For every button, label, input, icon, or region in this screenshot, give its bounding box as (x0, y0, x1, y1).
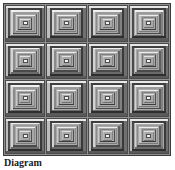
ring-edge-right (34, 15, 35, 32)
ring-edge-bottom (62, 65, 72, 66)
ring-edge-left (57, 52, 58, 69)
ring-edge-bottom (54, 145, 78, 146)
ring-edge-right (75, 90, 76, 107)
ring-edge-right (120, 85, 122, 111)
ring-edge-left (57, 127, 58, 144)
ring-edge-bottom (62, 102, 72, 103)
ring-edge-right (122, 46, 124, 76)
ring-edge-right (42, 119, 44, 154)
ring-edge-bottom (59, 29, 73, 30)
ring-edge-right (166, 44, 168, 79)
ring-edge-right (116, 90, 117, 107)
ring-edge-right (161, 85, 163, 111)
ring-edge-top (20, 19, 30, 20)
ring-edge-bottom (142, 104, 156, 105)
ring-edge-bottom (100, 141, 114, 142)
ring-edge-right (75, 127, 76, 144)
ring-edge-bottom (18, 29, 32, 30)
ring-edge-left (18, 54, 19, 67)
ring-edge-bottom (135, 35, 164, 37)
ring-edge-bottom (50, 36, 83, 38)
ring-edge-bottom (20, 27, 30, 28)
quilt-grid (3, 3, 171, 156)
ring-edge-right (38, 10, 40, 36)
ring-edge-top (57, 127, 76, 128)
ring-edge-bottom (132, 74, 165, 76)
ring-edge-right (40, 121, 42, 151)
ring-edge-bottom (139, 31, 158, 32)
ring-edge-bottom (59, 141, 73, 142)
ring-edge-right (42, 44, 44, 79)
ring-edge-bottom (144, 27, 154, 28)
ring-edge-top (100, 92, 114, 93)
ring-edge-bottom (144, 140, 154, 141)
ring-edge-bottom (18, 66, 32, 67)
ring-edge-right (122, 83, 124, 113)
ring-edge-bottom (96, 70, 120, 71)
ring-edge-left (100, 129, 101, 142)
ring-edge-bottom (103, 27, 113, 28)
ring-edge-right (73, 17, 74, 30)
ring-edge-bottom (57, 68, 76, 69)
ring-edge-bottom (47, 151, 85, 153)
ring-edge-top (100, 54, 114, 55)
ring-edge-bottom (130, 113, 168, 115)
ring-edge-right (77, 87, 78, 109)
quilt-block (46, 43, 86, 80)
ring-edge-left (96, 87, 97, 109)
ring-edge-top (137, 50, 161, 51)
ring-edge-right (116, 52, 117, 69)
ring-edge-right (120, 48, 122, 74)
ring-edge-left (142, 92, 143, 105)
ring-edge-left (18, 17, 19, 30)
ring-edge-right (77, 50, 78, 72)
ring-edge-bottom (89, 113, 127, 115)
ring-edge-left (98, 52, 99, 69)
ring-edge-bottom (11, 110, 40, 112)
ring-edge-left (54, 87, 55, 109)
ring-edge-right (118, 87, 119, 109)
ring-edge-left (57, 15, 58, 32)
ring-edge-top (98, 90, 117, 91)
ring-edge-right (36, 12, 37, 34)
ring-edge-right (38, 48, 40, 74)
ring-edge-right (120, 10, 122, 36)
ring-edge-right (42, 81, 44, 116)
ring-edge-bottom (54, 108, 78, 109)
ring-edge-right (164, 83, 166, 113)
ring-edge-bottom (100, 29, 114, 30)
ring-edge-top (54, 12, 78, 13)
ring-edge-left (98, 15, 99, 32)
ring-edge-bottom (142, 66, 156, 67)
ring-edge-top (59, 54, 73, 55)
ring-edge-left (100, 92, 101, 105)
ring-edge-right (77, 125, 78, 147)
ring-edge-bottom (89, 76, 127, 78)
ring-edge-left (96, 50, 97, 72)
ring-edge-left (13, 87, 14, 109)
ring-edge-bottom (52, 147, 81, 149)
ring-edge-left (98, 90, 99, 107)
quilt-block-center (146, 21, 151, 25)
ring-edge-left (59, 92, 60, 105)
ring-edge-top (18, 54, 32, 55)
ring-edge-right (81, 8, 83, 38)
ring-edge-bottom (137, 33, 161, 34)
ring-edge-left (96, 12, 97, 34)
quilt-block (129, 80, 169, 117)
ring-edge-top (20, 94, 30, 95)
ring-edge-bottom (100, 104, 114, 105)
ring-edge-left (137, 125, 138, 147)
ring-edge-bottom (96, 33, 120, 34)
ring-edge-bottom (52, 110, 81, 112)
ring-edge-right (157, 52, 158, 69)
ring-edge-right (122, 8, 124, 38)
ring-edge-bottom (132, 36, 165, 38)
ring-edge-bottom (8, 149, 41, 151)
ring-edge-top (103, 94, 113, 95)
ring-edge-bottom (144, 65, 154, 66)
ring-edge-left (16, 15, 17, 32)
ring-edge-top (137, 125, 161, 126)
ring-edge-right (114, 17, 115, 30)
ring-edge-bottom (50, 149, 83, 151)
